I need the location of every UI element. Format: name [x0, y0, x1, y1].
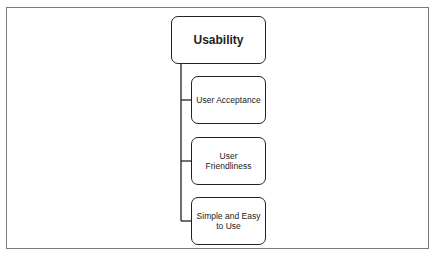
child-node-user-acceptance[interactable]: User Acceptance: [191, 76, 266, 124]
child-node-user-friendliness[interactable]: User Friendliness: [191, 137, 266, 185]
child-node-simple-easy[interactable]: Simple and Easy to Use: [191, 197, 266, 245]
child-node-label: User Friendliness: [196, 151, 261, 171]
root-node-label: Usability: [193, 33, 243, 47]
child-node-label: User Acceptance: [196, 95, 260, 105]
child-node-label: Simple and Easy to Use: [196, 211, 261, 231]
root-node-usability[interactable]: Usability: [171, 16, 266, 64]
